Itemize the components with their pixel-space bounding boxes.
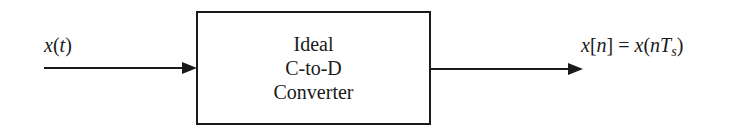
output-arrow — [429, 63, 583, 75]
output-arrowhead-icon — [568, 63, 583, 75]
output-rhs-close: ) — [677, 34, 684, 56]
block-line-3: Converter — [274, 80, 354, 104]
ideal-c-to-d-converter-block: Ideal C-to-D Converter — [196, 11, 431, 125]
input-signal-label: x(t) — [44, 34, 72, 57]
output-lhs-arg: n — [597, 34, 607, 56]
output-equals: = — [613, 34, 634, 56]
c-to-d-block-diagram: x(t) Ideal C-to-D Converter x[n] = x(nTs… — [0, 0, 743, 132]
input-var: x — [44, 34, 53, 56]
output-signal-label: x[n] = x(nTs) — [581, 34, 683, 60]
input-open-paren: ( — [53, 34, 60, 56]
block-line-2: C-to-D — [285, 56, 342, 80]
block-line-1: Ideal — [294, 32, 334, 56]
input-arrow — [44, 62, 197, 74]
input-close-paren: ) — [65, 34, 72, 56]
output-lhs-var: x — [581, 34, 590, 56]
input-arrowhead-icon — [182, 62, 197, 74]
output-lhs-open: [ — [590, 34, 597, 56]
output-rhs-arg: nT — [650, 34, 671, 56]
